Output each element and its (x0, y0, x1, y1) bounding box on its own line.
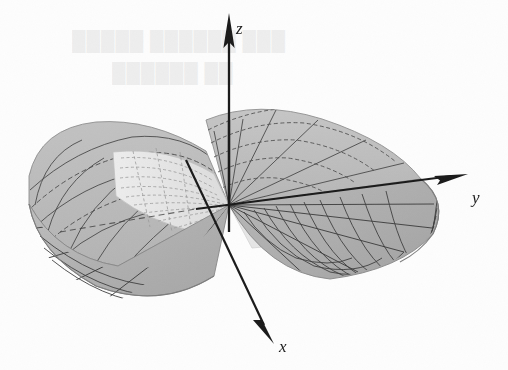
axis-label-z: z (235, 19, 243, 38)
figure-canvas: █████ ██████ ███ ██████ ██ (0, 0, 508, 370)
axis-x-arrowhead (253, 312, 274, 344)
axis-label-x: x (278, 337, 287, 356)
helicoid-surface-plot: z y x (0, 0, 508, 370)
axis-label-y: y (470, 188, 480, 207)
axis-y-arrowhead (434, 174, 468, 185)
